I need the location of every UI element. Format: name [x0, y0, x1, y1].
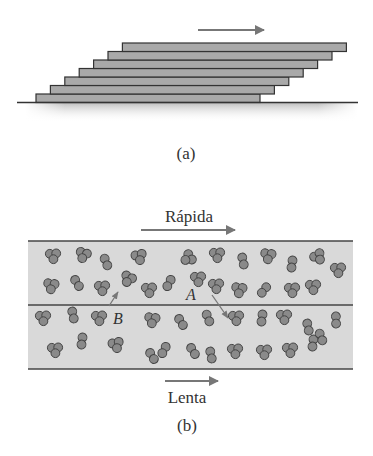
plate — [122, 43, 346, 52]
diagram: (a) Rápida A B Lenta (b) — [0, 0, 373, 456]
plate — [94, 60, 318, 69]
label-rapida: Rápida — [165, 207, 214, 226]
plate — [36, 94, 260, 103]
plate-stack — [36, 43, 346, 103]
label-lenta: Lenta — [168, 388, 207, 407]
plate — [65, 77, 289, 86]
panel-a: (a) — [17, 30, 358, 163]
caption-b: (b) — [177, 416, 197, 435]
caption-a: (a) — [177, 144, 196, 163]
label-b: B — [113, 310, 123, 327]
panel-b: Rápida A B Lenta (b) — [28, 207, 353, 435]
label-a: A — [185, 286, 196, 303]
plate — [108, 52, 332, 61]
plate — [79, 69, 303, 78]
plate — [50, 86, 274, 95]
